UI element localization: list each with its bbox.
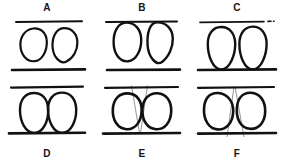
panel-e-bottom-line (103, 133, 180, 134)
panel-c: C (190, 0, 284, 80)
panel-a-label: A (0, 2, 94, 14)
panel-e: E (95, 81, 189, 161)
panel-f-egg-left (204, 93, 233, 129)
panel-d-top-line (11, 87, 83, 88)
panel-f-bottom-line (198, 133, 276, 134)
figure-canvas: A B C (0, 0, 284, 161)
panel-b-egg-right (147, 22, 172, 63)
panel-a: A (0, 0, 94, 80)
panel-d-bottom-line (9, 133, 85, 134)
panel-a-egg-right (53, 28, 78, 62)
panel-c-top-line (200, 22, 264, 23)
panel-b-top-line (106, 21, 177, 22)
panel-f-label: F (190, 148, 284, 160)
panel-f: F (190, 81, 284, 161)
panel-d-label: D (0, 148, 94, 160)
panel-c-egg-right (239, 27, 266, 70)
panel-a-egg-left (20, 28, 46, 61)
panel-c-label: C (190, 2, 284, 14)
panel-c-bottom-line (198, 69, 276, 70)
panel-f-top-line (198, 87, 274, 88)
panel-a-top-line (16, 21, 82, 22)
panel-e-egg-right (142, 93, 171, 129)
panel-c-egg-left (208, 27, 235, 69)
panel-d-egg-left (20, 93, 48, 133)
panel-b: B (95, 0, 189, 80)
panel-e-label: E (95, 148, 189, 160)
panel-d-egg-right (48, 93, 76, 133)
panel-b-label: B (95, 2, 189, 14)
panel-d: D (0, 81, 94, 161)
panel-f-egg-right (237, 93, 265, 129)
panel-b-egg-left (114, 23, 142, 62)
panel-e-egg-left (113, 93, 142, 129)
panel-a-bottom-line (12, 69, 85, 70)
panel-e-top-line (105, 87, 178, 88)
